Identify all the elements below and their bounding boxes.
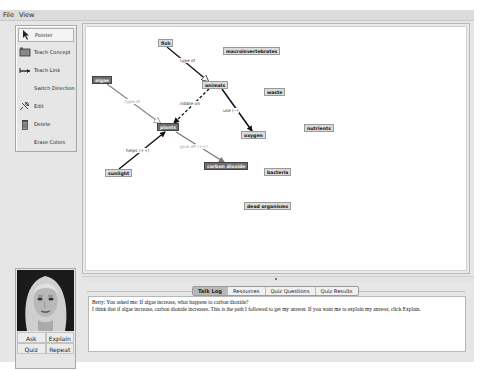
concept-map-canvas[interactable]: type of type of nibble on use (--) helps…: [85, 26, 467, 271]
splitter-grip-icon: [275, 278, 277, 280]
betty-avatar: [17, 270, 74, 331]
tool-palette: Pointer Teach Concept Teach Link Switch …: [15, 25, 77, 152]
concept-node-waste[interactable]: waste: [264, 88, 285, 96]
concept-node-fish[interactable]: fish: [158, 39, 173, 47]
tool-pointer[interactable]: Pointer: [18, 28, 74, 42]
repeat-button[interactable]: Repeat: [46, 343, 75, 354]
agent-buttons: Ask Explain Quiz Repeat: [17, 332, 74, 354]
tab-resources[interactable]: Resources: [228, 287, 266, 295]
link-label-nibble-on: nibble on: [179, 101, 201, 106]
concept-box-icon: [18, 46, 32, 58]
tool-teach-concept[interactable]: Teach Concept: [18, 45, 74, 59]
concept-node-carbon-dioxide[interactable]: carbon dioxide: [204, 162, 248, 170]
trash-icon: [18, 118, 32, 130]
tool-delete[interactable]: Delete: [18, 117, 74, 131]
link-label-give-off: give off (++): [179, 144, 209, 149]
tool-label: Switch Direction: [18, 85, 75, 91]
tab-quiz-questions[interactable]: Quiz Questions: [266, 287, 316, 295]
tool-label: Teach Concept: [32, 49, 71, 55]
explain-button[interactable]: Explain: [46, 332, 75, 343]
link-label-type-of-fish: type of: [179, 58, 196, 63]
talk-log-line: I think that if algae increase, carbon d…: [92, 306, 462, 313]
tool-teach-link[interactable]: Teach Link: [18, 63, 74, 77]
agent-panel: Ask Explain Quiz Repeat: [15, 268, 76, 369]
app-window: FileView Pointer Teach Concept Teach Lin…: [0, 10, 474, 362]
quiz-button[interactable]: Quiz: [17, 343, 46, 354]
tab-talk-log[interactable]: Talk Log: [193, 287, 228, 295]
tab-quiz-results[interactable]: Quiz Results: [316, 287, 358, 295]
concept-node-sunlight[interactable]: sunlight: [105, 169, 132, 177]
bottom-panel: Talk Log Resources Quiz Questions Quiz R…: [82, 282, 470, 362]
concept-node-plants[interactable]: plants: [157, 123, 179, 131]
edit-icon: [18, 100, 32, 112]
tool-erase-colors[interactable]: Erase Colors: [18, 135, 74, 149]
link-label-helps: helps (++): [125, 148, 150, 153]
menu-bar: FileView: [0, 10, 474, 21]
concept-node-macroinvertebrates[interactable]: macroinvertebrates: [223, 47, 280, 55]
concept-node-nutrients[interactable]: nutrients: [304, 124, 334, 132]
tool-label: Erase Colors: [18, 139, 65, 145]
bottom-tabs: Talk Log Resources Quiz Questions Quiz R…: [192, 286, 359, 296]
split-pane-divider[interactable]: [82, 276, 474, 281]
concept-node-bacteria[interactable]: bacteria: [264, 168, 291, 176]
link-arrow-icon: [18, 64, 32, 76]
link-label-use: use (--): [222, 108, 239, 113]
tool-label: Edit: [32, 103, 44, 109]
link-label-type-of-algae: type of: [124, 99, 141, 104]
tool-label: Teach Link: [32, 67, 60, 73]
concept-node-algae[interactable]: algae: [92, 76, 112, 84]
pointer-arrow-icon: [19, 29, 33, 41]
concept-node-animals[interactable]: animals: [202, 81, 228, 89]
avatar-face-icon: [17, 270, 74, 331]
tool-label: Pointer: [33, 32, 53, 38]
menu-file[interactable]: File: [0, 10, 16, 20]
tool-switch-direction[interactable]: Switch Direction: [18, 81, 74, 95]
concept-node-oxygen[interactable]: oxygen: [241, 131, 266, 139]
concept-map-panel: type of type of nibble on use (--) helps…: [82, 23, 470, 274]
ask-button[interactable]: Ask: [17, 332, 46, 343]
talk-log-text[interactable]: Betty: You asked me: If algae increase, …: [88, 296, 466, 352]
tool-label: Delete: [32, 121, 50, 127]
concept-node-dead-organisms[interactable]: dead organisms: [244, 202, 291, 210]
tool-edit[interactable]: Edit: [18, 99, 74, 113]
menu-view[interactable]: View: [16, 10, 36, 20]
